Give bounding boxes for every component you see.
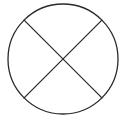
crossed-circle-diagram <box>0 0 126 127</box>
